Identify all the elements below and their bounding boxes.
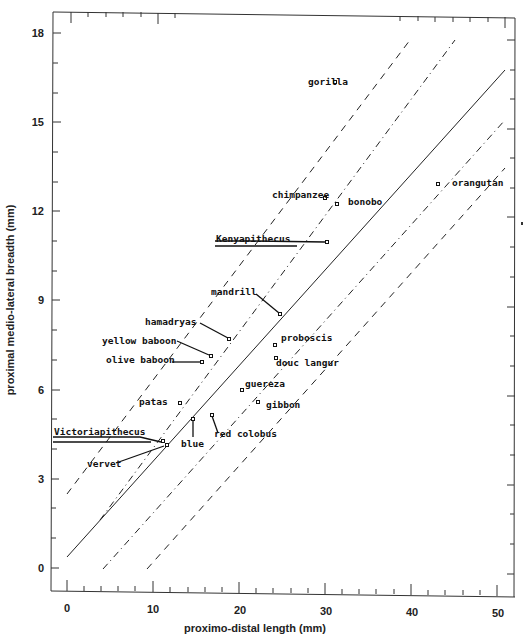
- plot-frame: [51, 12, 515, 597]
- label-bonobo: bonobo: [348, 196, 383, 207]
- label-olive-baboon: olive baboon: [106, 354, 175, 365]
- point-gibbon: [257, 401, 260, 404]
- point-orangutan: [437, 183, 440, 186]
- edge-mark: [521, 222, 523, 225]
- lower-prediction-line: [147, 168, 505, 569]
- x-tick-label: 10: [147, 603, 159, 615]
- point-guereza: [241, 389, 244, 392]
- scatter-chart: 0 10 20 30 40 50 18 15 12 9 6 3 0 proxim…: [0, 0, 527, 641]
- label-gorilla: gorilla: [308, 76, 348, 87]
- x-tick-label: 30: [320, 605, 332, 617]
- point-victoriapithecus: [162, 440, 165, 443]
- point-kenyapithecus: [326, 241, 329, 244]
- label-douc-langur: douc langur: [276, 357, 339, 368]
- label-proboscis: proboscis: [281, 332, 332, 343]
- point-hamadryas: [228, 338, 231, 341]
- point-patas: [179, 402, 182, 405]
- data-points: [162, 81, 440, 447]
- label-hamadryas: hamadryas: [145, 316, 196, 327]
- y-tick-label: 12: [32, 205, 44, 217]
- regression-line: [67, 70, 505, 557]
- point-red-colobus: [211, 414, 214, 417]
- x-axis-ticks-top: [71, 12, 505, 28]
- x-tick-label: 40: [406, 606, 418, 618]
- y-tick-label: 3: [38, 473, 44, 485]
- y-tick-label: 15: [32, 116, 44, 128]
- x-tick-label: 50: [492, 607, 504, 619]
- y-tick-label: 9: [38, 294, 44, 306]
- point-mandrill: [279, 313, 282, 316]
- point-bonobo: [336, 203, 339, 206]
- point-proboscis: [274, 344, 277, 347]
- label-gibbon: gibbon: [266, 399, 300, 410]
- y-tick-labels: 18 15 12 9 6 3 0: [32, 27, 44, 574]
- point-olive-baboon: [201, 361, 204, 364]
- upper-confidence-line: [100, 40, 455, 520]
- x-tick-label: 0: [64, 602, 70, 614]
- label-kenyapithecus: Kenyapithecus: [216, 233, 290, 244]
- label-red-colobus: red colobus: [214, 428, 277, 439]
- label-guereza: guereza: [245, 378, 285, 389]
- label-chimpanzee: chimpanzee: [272, 189, 329, 200]
- label-patas: patas: [139, 396, 168, 407]
- label-orangutan: orangutan: [452, 177, 503, 188]
- y-tick-label: 6: [38, 384, 44, 396]
- x-tick-label: 20: [234, 604, 246, 616]
- label-victoriapithecus: Victoriapithecus: [54, 426, 146, 437]
- y-tick-label: 0: [38, 562, 44, 574]
- x-axis-title: proximo-distal length (mm): [184, 622, 326, 634]
- point-yellow-baboon: [210, 355, 213, 358]
- point-vervet: [166, 444, 169, 447]
- label-vervet: vervet: [87, 458, 121, 469]
- point-labels: gorilla chimpanzee bonobo orangutan Keny…: [54, 76, 503, 469]
- x-tick-labels: 0 10 20 30 40 50: [64, 602, 504, 619]
- point-blue: [192, 418, 195, 421]
- y-axis-title: proximal medio-lateral breadth (mm): [4, 204, 16, 395]
- y-tick-label: 18: [32, 27, 44, 39]
- label-blue: blue: [181, 438, 204, 449]
- label-yellow-baboon: yellow baboon: [102, 335, 176, 346]
- regression-lines: [67, 40, 505, 569]
- label-mandrill: mandrill: [211, 286, 257, 297]
